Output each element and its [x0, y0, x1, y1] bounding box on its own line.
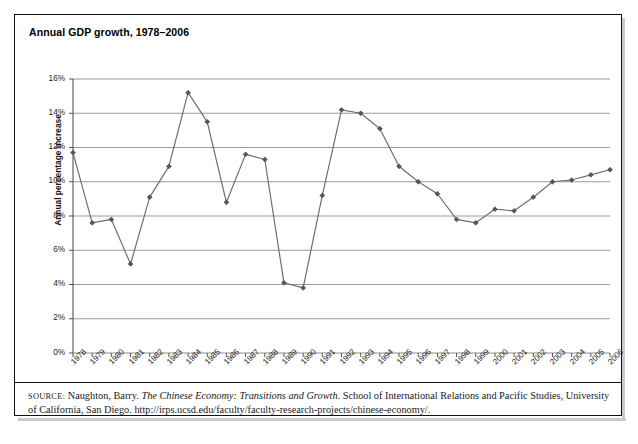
y-tick-label: 14%: [37, 108, 65, 117]
data-point-marker: [224, 200, 229, 205]
y-tick-label: 0%: [37, 348, 65, 357]
data-point-marker: [608, 167, 613, 172]
chart-plot-area: Annual percentage increase 0%2%4%6%8%10%…: [15, 15, 623, 382]
data-point-marker: [243, 152, 248, 157]
figure-page: Annual GDP growth, 1978–2006 Annual perc…: [0, 0, 638, 444]
y-tick-label: 8%: [37, 211, 65, 220]
source-text-lead: Naughton, Barry.: [65, 390, 141, 401]
y-tick-label: 6%: [37, 245, 65, 254]
data-point-marker: [71, 150, 76, 155]
source-divider: [15, 382, 621, 383]
source-note: SOURCE: Naughton, Barry. The Chinese Eco…: [28, 389, 610, 417]
data-point-marker: [262, 157, 267, 162]
data-line-gdp-growth: [73, 93, 610, 288]
data-point-marker: [128, 262, 133, 267]
data-point-marker: [90, 220, 95, 225]
figure-shadow-bottom: [18, 418, 626, 421]
data-point-marker: [339, 107, 344, 112]
y-tick-label: 2%: [37, 313, 65, 322]
y-tick-label: 16%: [37, 74, 65, 83]
data-point-marker: [320, 193, 325, 198]
data-point-marker: [109, 217, 114, 222]
y-tick-label: 12%: [37, 142, 65, 151]
data-point-marker: [588, 173, 593, 178]
line-chart-svg: [15, 15, 623, 382]
source-title-italic: The Chinese Economy: Transitions and Gro…: [141, 390, 337, 401]
y-tick-label: 4%: [37, 279, 65, 288]
y-tick-label: 10%: [37, 176, 65, 185]
source-label: SOURCE:: [28, 392, 65, 401]
figure-box: Annual GDP growth, 1978–2006 Annual perc…: [14, 14, 622, 416]
data-point-marker: [301, 286, 306, 291]
